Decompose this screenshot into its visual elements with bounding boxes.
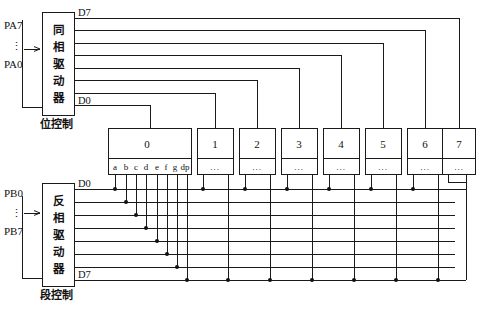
seg-driver-input-bus <box>22 196 42 278</box>
digit4-segments-ellipsis: ... <box>336 162 346 172</box>
bit-driver-label: 同 相 驱 动 器 <box>52 23 65 105</box>
digit5-segments-ellipsis: ... <box>378 162 388 172</box>
pa0-label: PA0 <box>4 58 23 70</box>
pb-ellipsis: ⋮ <box>11 207 22 219</box>
digit-label-2: 2 <box>254 138 260 150</box>
bit-driver-input-bus <box>22 20 42 107</box>
segment-label-g: g <box>173 162 178 172</box>
digit3-segments-ellipsis: ... <box>294 162 304 172</box>
diagram-canvas: PA7 ⋮ PA0 PB0 ⋮ PB7 D7 D0 D0 D7 位控制 段控制 … <box>0 0 483 311</box>
segment-label-dp: dp <box>181 162 191 172</box>
seg-driver-label-c4: 器 <box>52 262 65 276</box>
bit-driver-label-c4: 器 <box>52 91 65 105</box>
digit-label-1: 1 <box>212 138 218 150</box>
digit-label-0: 0 <box>144 138 150 150</box>
bit-driver-label-c2: 驱 <box>53 57 65 71</box>
seg-d0-label: D0 <box>78 178 91 189</box>
bit-line-d3 <box>74 68 299 128</box>
segment-label-f: f <box>165 162 168 172</box>
seg-control-caption: 段控制 <box>40 288 73 302</box>
pb0-label: PB0 <box>4 187 23 199</box>
bit-line-d1 <box>74 93 215 128</box>
bit-driver-label-c3: 动 <box>53 74 65 88</box>
bit-driver-label-c0: 同 <box>53 23 64 37</box>
pa-ellipsis: ⋮ <box>11 40 22 52</box>
segment-label-a: a <box>113 162 117 172</box>
bit-d0-label: D0 <box>78 95 91 106</box>
bit-line-d2 <box>74 81 257 129</box>
bit-control-caption: 位控制 <box>40 117 73 131</box>
segment-label-b: b <box>124 162 129 172</box>
digit2-segments-ellipsis: ... <box>252 162 262 172</box>
segment-label-d: d <box>144 162 149 172</box>
segment-label-c: c <box>134 162 138 172</box>
seg-driver-label-c3: 动 <box>53 245 65 259</box>
digit-box-0 <box>108 128 191 174</box>
digit7-segment-pins <box>448 174 466 280</box>
digit-label-6: 6 <box>422 138 428 150</box>
digit6-segments-ellipsis: ... <box>420 162 430 172</box>
seg-driver-label-c2: 驱 <box>53 228 65 242</box>
bit-driver-label-c1: 相 <box>53 40 64 54</box>
seg-driver-label-c0: 反 <box>53 194 65 208</box>
digit-label-5: 5 <box>380 138 386 150</box>
digit-label-3: 3 <box>296 138 302 150</box>
seg-driver-label-c1: 相 <box>53 211 64 225</box>
segment-label-e: e <box>155 162 159 172</box>
pb7-label: PB7 <box>4 225 23 237</box>
bit-d7-label: D7 <box>78 7 91 18</box>
bit-line-d0 <box>74 106 150 129</box>
digit1-segments-ellipsis: ... <box>210 162 220 172</box>
bit-line-d6 <box>74 31 425 129</box>
seg-driver-label: 反 相 驱 动 器 <box>52 194 65 276</box>
circuit-diagram-svg: PA7 ⋮ PA0 PB0 ⋮ PB7 D7 D0 D0 D7 位控制 段控制 … <box>0 0 483 311</box>
digit-label-7: 7 <box>456 138 462 150</box>
seg-d7-label: D7 <box>78 269 91 280</box>
bit-line-d4 <box>74 56 341 129</box>
bit-line-d7 <box>74 18 459 128</box>
digit7-segments-ellipsis: ... <box>454 162 464 172</box>
pa7-label: PA7 <box>4 19 23 31</box>
digit-label-4: 4 <box>338 138 344 150</box>
